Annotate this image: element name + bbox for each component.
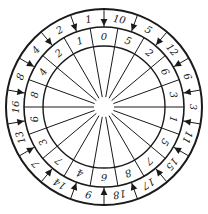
spoke bbox=[47, 110, 95, 127]
outer-number: 8 bbox=[14, 72, 27, 82]
inner-divider bbox=[29, 128, 47, 134]
inner-divider bbox=[43, 146, 58, 158]
arrow-icon bbox=[174, 60, 182, 66]
outer-number: 2 bbox=[53, 24, 65, 37]
spoke bbox=[113, 110, 161, 127]
arrow-icon bbox=[184, 88, 191, 95]
inner-number: 4 bbox=[36, 66, 49, 78]
spoke bbox=[47, 86, 95, 103]
inner-number: 3 bbox=[37, 137, 50, 148]
inner-divider bbox=[90, 167, 93, 186]
outer-number: 17 bbox=[140, 176, 157, 192]
inner-divider bbox=[151, 56, 166, 68]
outer-number: 7 bbox=[29, 158, 42, 170]
outer-number: 5 bbox=[143, 24, 154, 37]
outer-number: 10 bbox=[112, 13, 127, 26]
outer-number: 1 bbox=[84, 13, 92, 25]
inner-number: 2 bbox=[143, 46, 156, 59]
inner-divider bbox=[90, 28, 93, 47]
inner-divider bbox=[43, 56, 58, 68]
inner-number: 7 bbox=[143, 155, 155, 168]
outer-number: 11 bbox=[180, 130, 195, 146]
outer-number: 9 bbox=[84, 189, 93, 201]
spoke bbox=[113, 86, 161, 103]
arrow-icon bbox=[17, 88, 24, 95]
inner-number: 1 bbox=[75, 34, 85, 47]
inner-number: 8 bbox=[29, 91, 41, 99]
inner-divider bbox=[135, 38, 145, 54]
spoke bbox=[106, 47, 115, 97]
inner-divider bbox=[135, 160, 145, 176]
outer-number: 13 bbox=[13, 130, 28, 146]
inner-divider bbox=[64, 38, 74, 54]
outer-number: 6 bbox=[181, 72, 194, 82]
inner-number: 5 bbox=[123, 34, 133, 47]
inner-number: 3 bbox=[167, 91, 179, 99]
arrow-icon bbox=[101, 188, 108, 195]
outer-number: 18 bbox=[112, 188, 126, 201]
inner-number: 6 bbox=[28, 115, 40, 124]
arrow-icon bbox=[26, 60, 34, 66]
outer-number: 4 bbox=[29, 44, 42, 57]
inner-number: 7 bbox=[52, 154, 64, 167]
inner-number: 6 bbox=[159, 66, 172, 78]
spoke bbox=[106, 117, 115, 167]
spoke bbox=[93, 117, 102, 167]
inner-number: 6 bbox=[100, 172, 107, 183]
inner-divider bbox=[151, 146, 166, 158]
arrow-icon bbox=[17, 119, 24, 126]
inner-number: 8 bbox=[123, 167, 133, 180]
arrow-icon bbox=[184, 119, 191, 126]
inner-divider bbox=[161, 80, 179, 86]
outer-number: 3 bbox=[188, 104, 199, 110]
inner-number: 0 bbox=[101, 31, 108, 42]
inner-divider bbox=[161, 128, 179, 134]
arrow-icon bbox=[101, 19, 108, 26]
spoke bbox=[93, 47, 102, 97]
inner-number: 2 bbox=[52, 47, 65, 60]
outer-number: 16 bbox=[10, 100, 21, 113]
inner-divider bbox=[115, 167, 118, 186]
inner-number: 5 bbox=[159, 137, 172, 148]
inner-divider bbox=[64, 160, 74, 176]
inner-number: 1 bbox=[167, 115, 179, 123]
inner-divider bbox=[115, 28, 118, 47]
number-wheel-diagram: 105126311151718914713168421 526315786473… bbox=[0, 0, 208, 214]
inner-divider bbox=[29, 80, 47, 86]
outer-number: 14 bbox=[51, 176, 68, 192]
arrow-icon bbox=[174, 148, 182, 154]
arrow-icon bbox=[26, 148, 34, 154]
inner-number: 4 bbox=[75, 167, 86, 180]
